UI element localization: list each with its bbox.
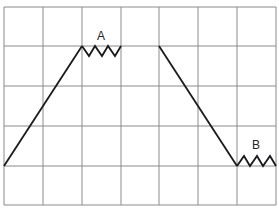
trace-zigzag-A [82,46,121,56]
waveform-diagram: A B [0,0,279,211]
label-a: A [97,29,105,43]
waveform-trace [4,46,276,166]
grid [4,7,276,205]
trace-zigzag-B [237,156,276,166]
label-b: B [252,138,260,152]
